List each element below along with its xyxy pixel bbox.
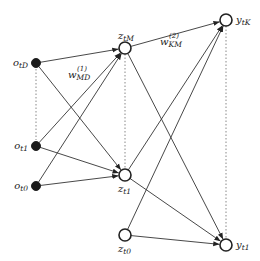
label-o_tD: otD	[13, 57, 28, 70]
node-y_t1	[220, 239, 232, 251]
edge-z_tM-to-y_t1	[128, 53, 223, 239]
neural-network-graph: otDot1ot0ztMzt1zt0ytKyt1(1)wMD(2)wKM	[0, 0, 260, 261]
weight-label-w2: (2)wKM	[160, 32, 182, 49]
weight-label-w1: (1)wMD	[68, 65, 90, 82]
label-y_tK: ytK	[235, 14, 251, 27]
label-y_t1: yt1	[235, 239, 249, 252]
edge-z_t0-to-y_tK	[128, 26, 224, 230]
nodes	[32, 14, 233, 251]
edge-o_t0-to-z_t1	[40, 176, 119, 186]
edges	[38, 22, 223, 245]
label-z_t1: zt1	[117, 183, 131, 196]
node-z_t0	[119, 229, 131, 241]
node-o_t0	[32, 182, 41, 191]
node-z_tM	[119, 42, 131, 54]
node-y_tK	[220, 14, 232, 26]
edge-o_t1-to-z_t1	[40, 147, 119, 173]
svg-text:(2): (2)	[169, 32, 179, 40]
label-o_t1: ot1	[14, 140, 28, 153]
edge-z_t0-to-y_t1	[131, 236, 220, 245]
edge-z_t1-to-y_t1	[130, 178, 221, 241]
node-o_tD	[32, 59, 41, 68]
label-o_t0: ot0	[14, 180, 28, 193]
node-o_t1	[32, 142, 41, 151]
node-z_t1	[119, 169, 131, 181]
edge-o_tD-to-z_tM	[40, 49, 119, 62]
network-diagram: otDot1ot0ztMzt1zt0ytKyt1(1)wMD(2)wKM	[0, 0, 260, 261]
svg-text:(1): (1)	[77, 65, 87, 73]
label-z_tM: ztM	[117, 30, 134, 43]
label-z_t0: zt0	[117, 243, 131, 256]
